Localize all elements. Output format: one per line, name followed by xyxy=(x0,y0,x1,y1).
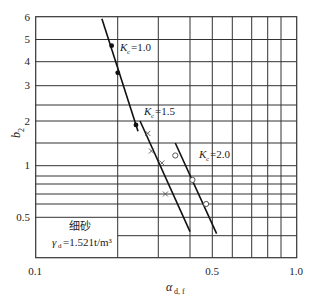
material-annotation: 细砂 γ d =1.521t/m³ xyxy=(52,220,113,250)
data-point xyxy=(190,177,195,182)
fit-line xyxy=(102,19,138,131)
data-point xyxy=(109,43,114,48)
material-name: 细砂 xyxy=(69,220,91,232)
series-label-k1.0: K c =1.0 xyxy=(119,41,151,56)
svg-text:α: α xyxy=(166,280,173,294)
x-tick-0.1: 0.1 xyxy=(28,265,42,277)
svg-text:=2.0: =2.0 xyxy=(210,148,230,160)
y-tick-0.5: 0.5 xyxy=(16,211,30,223)
density-value: =1.521t/m³ xyxy=(63,236,113,248)
y-tick-1: 1 xyxy=(25,159,31,171)
svg-text:d, f: d, f xyxy=(174,287,185,296)
svg-text:2: 2 xyxy=(17,128,26,132)
series-label-k2.0: K c =2.0 xyxy=(198,148,230,163)
series-K_c=1.0 xyxy=(102,19,138,131)
svg-text:c: c xyxy=(206,155,209,163)
data-point xyxy=(134,123,139,128)
x-tick-1.0: 1.0 xyxy=(289,265,303,277)
y-tick-labels: 6 5 4 3 2 1 0.5 xyxy=(16,11,30,223)
y-tick-2: 2 xyxy=(25,115,31,127)
x-tick-0.5: 0.5 xyxy=(205,265,219,277)
svg-text:=1.0: =1.0 xyxy=(131,41,151,53)
svg-text:=1.5: =1.5 xyxy=(155,105,175,117)
y-tick-4: 4 xyxy=(25,55,31,67)
data-point xyxy=(173,153,178,158)
y-tick-5: 5 xyxy=(25,33,31,45)
svg-text:d: d xyxy=(58,242,62,250)
x-tick-labels: 0.1 0.5 1.0 xyxy=(28,265,303,277)
log-log-chart: 6 5 4 3 2 1 0.5 0.1 0.5 1.0 b 2 α d, f K… xyxy=(0,0,313,297)
data-point xyxy=(204,201,209,206)
data-point xyxy=(115,70,120,75)
svg-text:c: c xyxy=(151,112,154,120)
y-tick-3: 3 xyxy=(25,79,31,91)
data-point xyxy=(159,160,164,165)
x-axis-label: α d, f xyxy=(166,280,185,296)
svg-text:c: c xyxy=(127,48,130,56)
series-label-k1.5: K c =1.5 xyxy=(143,105,175,120)
y-tick-6: 6 xyxy=(25,11,31,23)
svg-text:γ: γ xyxy=(52,236,57,248)
y-axis-label: b 2 xyxy=(9,128,26,138)
